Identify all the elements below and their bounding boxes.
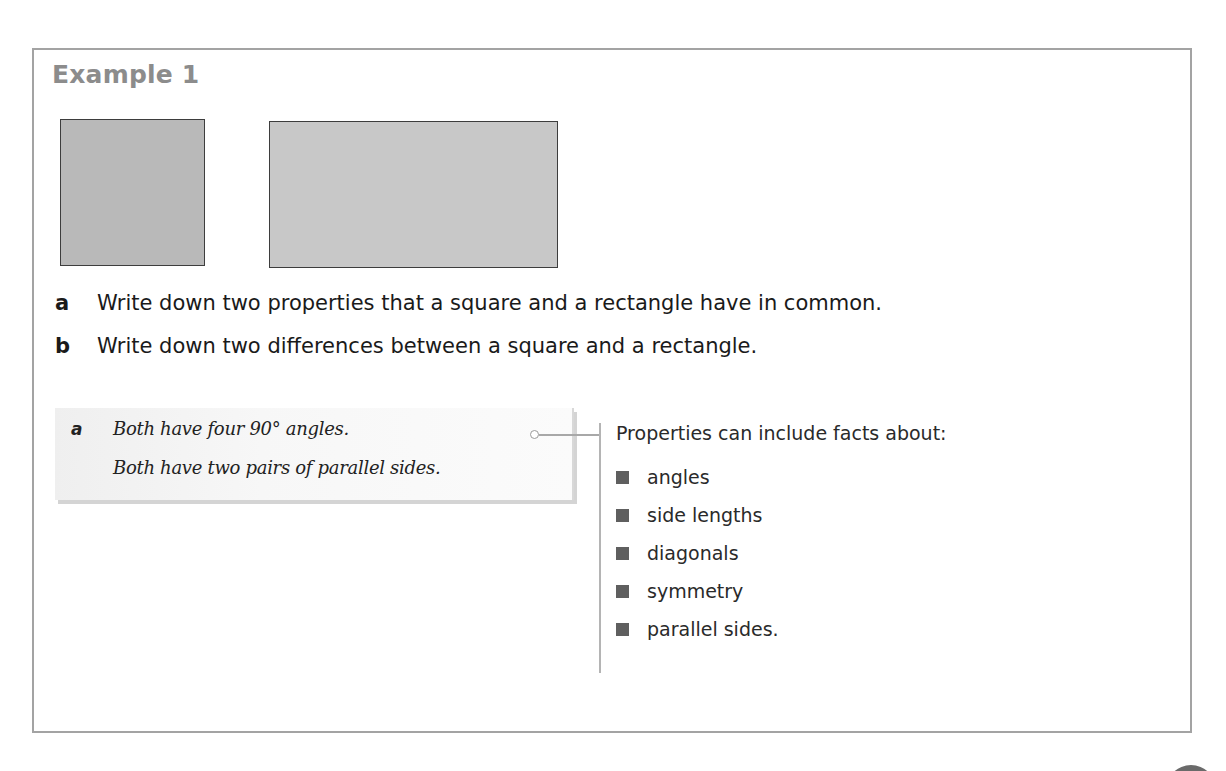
question-a: a Write down two properties that a squar… xyxy=(55,291,882,315)
tip-item: parallel sides. xyxy=(616,610,947,648)
tip-divider xyxy=(599,423,601,673)
square-bullet-icon xyxy=(616,547,629,560)
answer-label: a xyxy=(55,419,113,439)
question-label: a xyxy=(55,291,97,315)
square-shape xyxy=(60,119,205,266)
tip-list: angles side lengths diagonals symmetry p… xyxy=(616,458,947,648)
connector-dot-icon xyxy=(530,430,539,439)
tip-heading: Properties can include facts about: xyxy=(616,422,947,458)
tip-item: diagonals xyxy=(616,534,947,572)
example-title: Example 1 xyxy=(52,60,199,89)
answer-line: a Both have four 90° angles. xyxy=(55,418,349,439)
tip-item-label: side lengths xyxy=(647,504,762,526)
tip-panel: Properties can include facts about: angl… xyxy=(616,422,947,648)
square-bullet-icon xyxy=(616,623,629,636)
tip-item: side lengths xyxy=(616,496,947,534)
page: Example 1 a Write down two properties th… xyxy=(0,0,1226,771)
square-bullet-icon xyxy=(616,471,629,484)
question-label: b xyxy=(55,334,97,358)
question-text: Write down two properties that a square … xyxy=(97,291,882,315)
question-b: b Write down two differences between a s… xyxy=(55,334,757,358)
answer-text: Both have two pairs of parallel sides. xyxy=(113,457,440,478)
tip-item: angles xyxy=(616,458,947,496)
example-box xyxy=(32,48,1192,733)
tip-item-label: symmetry xyxy=(647,580,743,602)
answer-card: a Both have four 90° angles. Both have t… xyxy=(55,408,574,500)
page-tab-circle xyxy=(1166,765,1216,771)
square-bullet-icon xyxy=(616,509,629,522)
question-text: Write down two differences between a squ… xyxy=(97,334,757,358)
tip-item-label: angles xyxy=(647,466,710,488)
tip-item-label: parallel sides. xyxy=(647,618,779,640)
tip-item-label: diagonals xyxy=(647,542,739,564)
square-bullet-icon xyxy=(616,585,629,598)
rectangle-shape xyxy=(269,121,558,268)
tip-item: symmetry xyxy=(616,572,947,610)
connector-line xyxy=(539,434,600,436)
answer-line: Both have two pairs of parallel sides. xyxy=(55,457,440,478)
answer-text: Both have four 90° angles. xyxy=(113,418,349,439)
